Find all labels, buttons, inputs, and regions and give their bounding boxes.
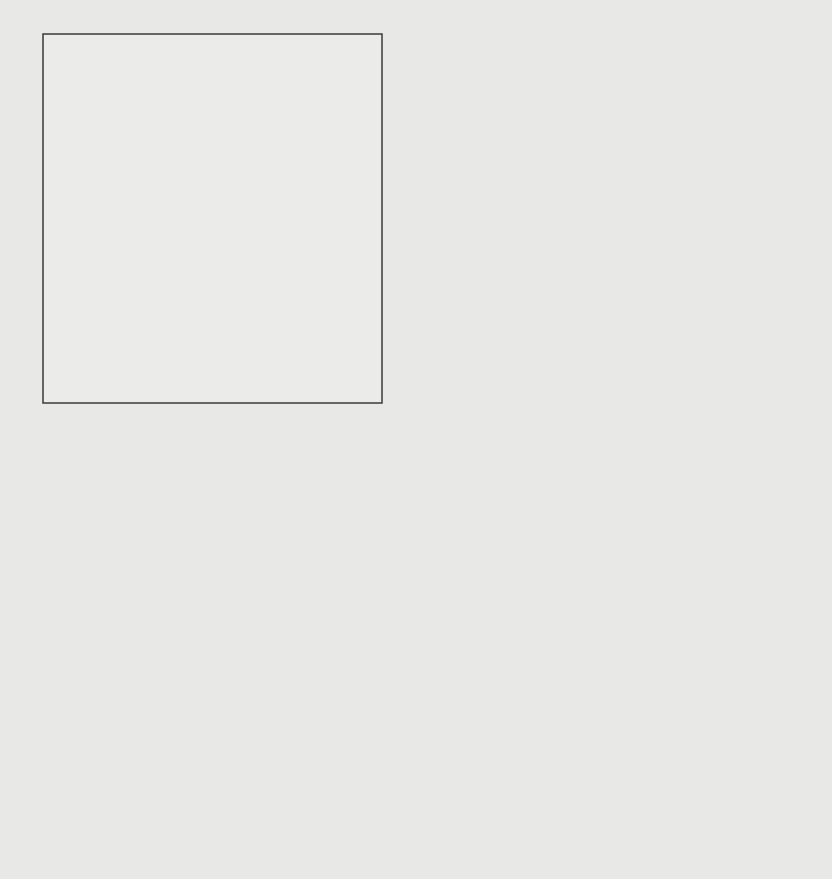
diagram-frame [43,34,382,403]
flow-map-diagram [0,0,832,879]
